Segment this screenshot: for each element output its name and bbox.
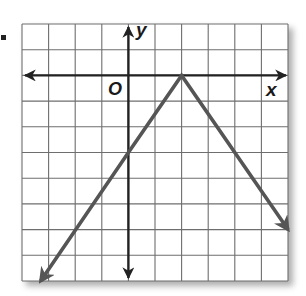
y-axis-label: y [136,20,147,39]
origin-label: O [108,80,122,98]
graph-figure: y x O [0,0,306,296]
x-axis-label: x [266,80,277,99]
coordinate-plane [0,0,306,296]
